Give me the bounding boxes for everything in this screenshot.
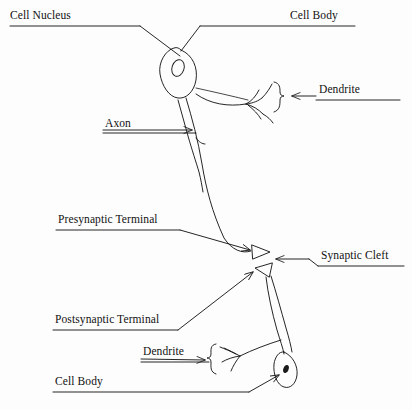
- dendrite-brace-bottom: [207, 344, 216, 374]
- dendrite-brace-top: [274, 82, 284, 112]
- label-postsynaptic-terminal: Postsynaptic Terminal: [55, 314, 159, 326]
- postsynaptic-terminal-bouton: [255, 263, 272, 277]
- presynaptic-dendrite: [196, 84, 273, 123]
- neuron-diagram-canvas: Cell Nucleus Cell Body Dendrite Axon Pre…: [0, 0, 412, 410]
- leader-cell-nucleus: [10, 26, 180, 56]
- presynaptic-nucleus: [170, 58, 187, 78]
- axon-shaft: [178, 98, 251, 252]
- postsynaptic-process: [266, 276, 292, 354]
- postsynaptic-nucleus: [282, 364, 290, 374]
- diagram-drawing: [0, 0, 412, 410]
- leader-axon: [103, 130, 196, 133]
- label-presynaptic-terminal: Presynaptic Terminal: [58, 214, 158, 226]
- leader-dendrite-top: [292, 96, 400, 100]
- label-dendrite-bottom: Dendrite: [143, 346, 184, 358]
- label-cell-nucleus: Cell Nucleus: [10, 10, 71, 22]
- leader-presynaptic-terminal: [56, 230, 250, 250]
- label-axon: Axon: [105, 118, 131, 130]
- postsynaptic-dendrite: [220, 340, 281, 371]
- label-cell-body-top: Cell Body: [290, 10, 338, 22]
- label-synaptic-cleft: Synaptic Cleft: [321, 250, 389, 262]
- presynaptic-soma: [160, 48, 197, 98]
- leader-cell-body-top: [181, 26, 355, 51]
- label-cell-body-bottom: Cell Body: [55, 376, 103, 388]
- label-dendrite-top: Dendrite: [319, 84, 360, 96]
- leader-dendrite-bottom: [141, 359, 209, 362]
- presynaptic-terminal-bouton: [252, 245, 270, 259]
